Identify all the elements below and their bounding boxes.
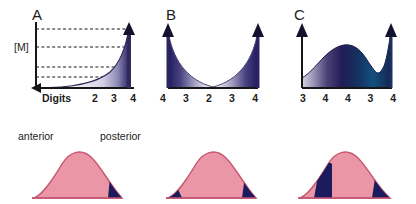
panel-b-tick-2: 2 [206, 92, 212, 104]
panel-c-tick-4: 4 [390, 92, 396, 104]
panel-b-tick-3: 3 [229, 92, 235, 104]
panel-a-tick-1: 3 [111, 92, 117, 104]
panel-c-tick-3: 3 [368, 92, 374, 104]
limb-bud-2-tissue [166, 152, 256, 198]
panel-b-left-arrow-up-icon [162, 23, 174, 37]
panel-a-plot [30, 22, 148, 96]
panel-a-tick-2: 4 [130, 92, 136, 104]
panel-c-letter: C [294, 6, 305, 23]
panel-b-tick-1: 3 [183, 92, 189, 104]
panel-c-tick-2: 4 [345, 92, 351, 104]
panel-b-letter: B [166, 6, 177, 23]
limb-bud-1-tissue [32, 152, 122, 198]
panel-a-letter: A [32, 6, 43, 23]
panel-a-digits-word: Digits [42, 92, 71, 104]
limb-bud-1-anterior-label: anterior [18, 130, 54, 142]
panel-c-tick-0: 3 [300, 92, 306, 104]
panel-c: C [284, 0, 416, 116]
panel-b: B [150, 0, 282, 116]
panel-b-tick-0: 4 [160, 92, 166, 104]
panel-b-tick-row: 4 3 2 3 4 [160, 92, 258, 104]
panel-c-tick-1: 4 [323, 92, 329, 104]
figure-root: A [M] [0, 0, 416, 204]
panel-c-tick-row: 3 4 4 3 4 [300, 92, 396, 104]
limb-bud-3 [280, 126, 416, 204]
panel-b-right-arrow-up-icon [252, 23, 264, 37]
panel-b-plot [162, 22, 274, 96]
limb-bud-1: anterior posterior [6, 126, 156, 204]
limb-bud-2 [148, 126, 284, 204]
panel-c-plot [292, 22, 410, 96]
panel-a-curve-fill [36, 28, 129, 88]
panel-c-y-arrow-up-icon [296, 23, 308, 37]
panel-c-curve-fill [302, 32, 391, 88]
panel-b-curve-fill [168, 30, 258, 88]
panel-a: A [M] [0, 0, 148, 116]
limb-bud-1-posterior-label: posterior [100, 130, 141, 142]
panel-a-tick-0: 2 [92, 92, 98, 104]
panel-a-y-axis-label: [M] [14, 41, 29, 53]
panel-c-right-arrow-up-icon [385, 23, 397, 37]
panel-a-tick-row: 2 3 4 [92, 92, 136, 104]
panel-b-tick-4: 4 [252, 92, 258, 104]
